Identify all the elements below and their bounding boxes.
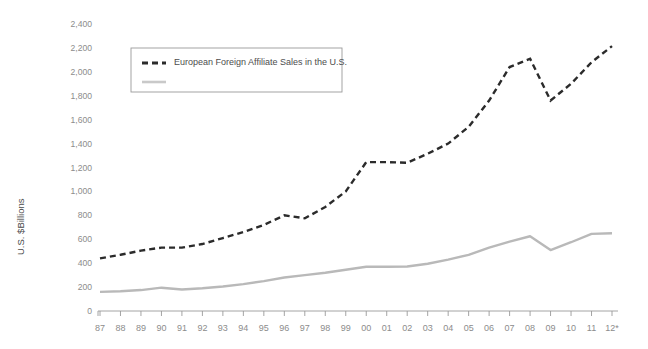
x-axis-tick-label: 91 [177, 323, 187, 333]
y-axis-tick-label: 400 [78, 258, 93, 268]
axis-lines [98, 311, 618, 316]
x-axis-tick-label: 07 [505, 323, 515, 333]
legend-label: European Foreign Affiliate Sales in the … [174, 57, 347, 67]
x-axis-tick-label: 08 [525, 323, 535, 333]
y-axis-tick-label: 2,200 [70, 43, 92, 53]
x-axis-tick-label: 12* [605, 323, 619, 333]
y-axis-tick-label: 0 [87, 306, 92, 316]
x-axis-tick-label: 96 [279, 323, 289, 333]
x-axis-tick-label: 93 [218, 323, 228, 333]
y-axis-title: U.S. $Billions [15, 198, 26, 255]
chart-container: U.S. $Billions 02004006008001,0001,2001,… [0, 0, 648, 349]
x-axis-tick-label: 11 [587, 323, 596, 333]
x-axis-tick-label: 09 [546, 323, 556, 333]
x-axis-tick-label: 01 [382, 323, 392, 333]
x-axis-tick-label: 98 [320, 323, 330, 333]
x-axis-tick-label: 97 [300, 323, 310, 333]
x-axis-tick-label: 88 [115, 323, 125, 333]
x-axis-tick-label: 03 [423, 323, 433, 333]
y-axis-tick-label: 2,400 [70, 19, 92, 29]
x-axis-tick-label: 99 [341, 323, 351, 333]
y-axis-tick-label: 2,000 [70, 67, 92, 77]
y-axis-tick-label: 600 [78, 234, 93, 244]
y-axis-tick-label: 1,600 [70, 115, 92, 125]
y-axis-tick-label: 1,400 [70, 139, 92, 149]
y-axis-title-group: U.S. $Billions [15, 198, 26, 255]
x-axis-tick-label: 92 [197, 323, 207, 333]
y-axis-tick-label: 800 [78, 210, 93, 220]
x-axis-tick-labels: 8788899091929394959697989900010203040506… [95, 323, 619, 333]
x-axis-tick-label: 04 [443, 323, 453, 333]
x-axis-tick-label: 90 [156, 323, 166, 333]
x-axis-tick-label: 10 [566, 323, 576, 333]
x-axis-tick-label: 87 [95, 323, 105, 333]
y-axis-tick-label: 1,200 [70, 163, 92, 173]
x-axis-tick-label: 06 [484, 323, 494, 333]
x-axis-tick-label: 95 [259, 323, 269, 333]
x-axis-tick-label: 05 [464, 323, 474, 333]
x-axis-tick-label: 94 [238, 323, 248, 333]
y-axis-tick-label: 200 [78, 282, 93, 292]
x-axis-tick-label: 89 [136, 323, 146, 333]
line-chart: U.S. $Billions 02004006008001,0001,2001,… [0, 0, 648, 349]
y-axis-tick-labels: 02004006008001,0001,2001,4001,6001,8002,… [70, 19, 92, 316]
legend-box [131, 48, 342, 92]
y-axis-tick-label: 1,800 [70, 91, 92, 101]
y-axis-tick-label: 1,000 [70, 186, 92, 196]
series-line-1 [100, 233, 612, 292]
x-axis-tick-label: 02 [402, 323, 412, 333]
x-axis-tick-label: 00 [361, 323, 371, 333]
chart-legend: European Foreign Affiliate Sales in the … [131, 48, 347, 92]
